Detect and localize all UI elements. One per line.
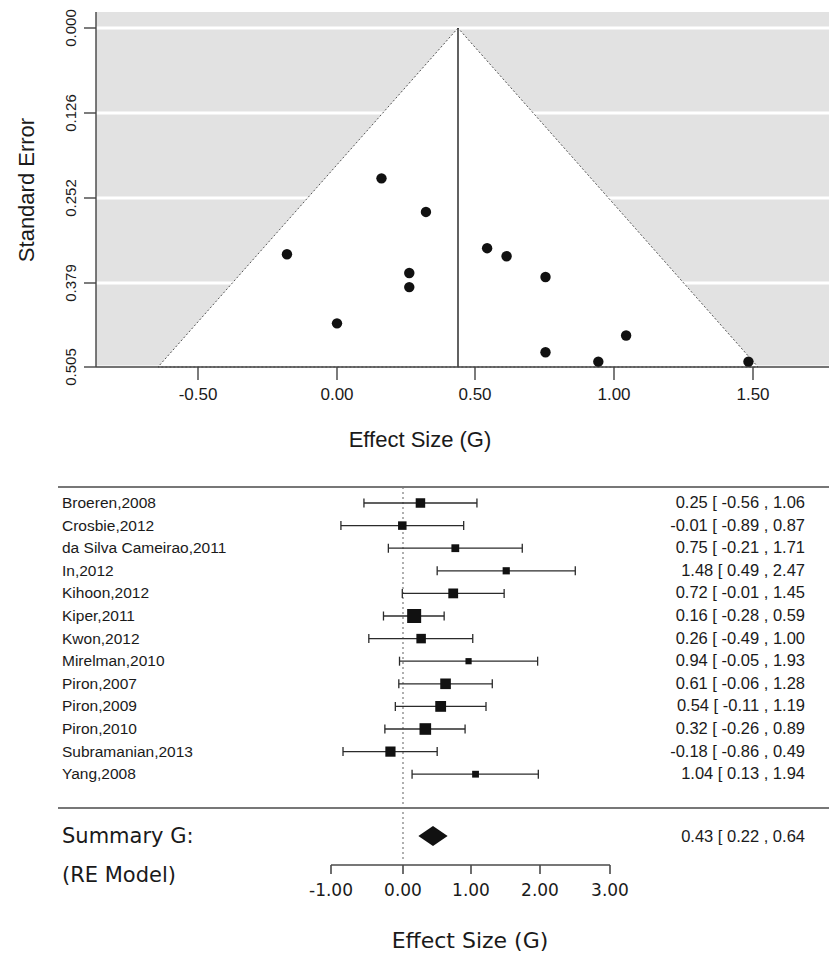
- forest-x-tick-1: 0.00: [384, 880, 422, 900]
- forest-x-tick-2: 1.00: [452, 880, 490, 900]
- forest-value-label: 0.54 [ -0.11 , 1.19: [677, 696, 805, 714]
- forest-x-tick-0: -1.00: [309, 880, 353, 900]
- forest-estimate-box: [435, 701, 446, 712]
- forest-row: Piron,20100.32 [ -0.26 , 0.89: [62, 719, 805, 737]
- funnel-x-tick-labels: -0.50 0.00 0.50 1.00 1.50: [179, 385, 770, 404]
- forest-estimate-box: [398, 521, 407, 530]
- forest-x-tick-3: 2.00: [521, 880, 559, 900]
- forest-estimate-box: [416, 634, 426, 644]
- funnel-x-tick-2: 0.50: [458, 385, 491, 404]
- forest-study-label: Mirelman,2010: [62, 652, 165, 669]
- forest-row: Crosbie,2012-0.01 [ -0.89 , 0.87: [62, 516, 805, 534]
- forest-x-axis: [331, 865, 610, 874]
- funnel-point: [332, 318, 342, 328]
- funnel-y-tick-3: 0.379: [62, 264, 79, 302]
- funnel-x-ticks: [198, 367, 753, 380]
- forest-estimate-box: [385, 747, 395, 757]
- funnel-x-tick-4: 1.50: [736, 385, 769, 404]
- forest-value-label: -0.01 [ -0.89 , 0.87: [670, 516, 805, 534]
- forest-plot-figure: Broeren,20080.25 [ -0.56 , 1.06Crosbie,2…: [0, 470, 829, 979]
- funnel-y-ticks: [84, 28, 96, 367]
- funnel-point: [540, 272, 550, 282]
- funnel-point: [404, 268, 414, 278]
- funnel-y-tick-0: 0.000: [62, 9, 79, 47]
- forest-study-label: In,2012: [62, 562, 114, 579]
- forest-estimate-box: [448, 589, 458, 599]
- forest-value-label: -0.18 [ -0.86 , 0.49: [670, 742, 805, 760]
- forest-row: Subramanian,2013-0.18 [ -0.86 , 0.49: [62, 742, 805, 760]
- funnel-point: [540, 347, 550, 357]
- funnel-y-axis-title: Standard Error: [14, 118, 39, 262]
- forest-estimate-box: [416, 498, 426, 508]
- funnel-y-tick-1: 0.126: [62, 94, 79, 132]
- forest-row: Broeren,20080.25 [ -0.56 , 1.06: [62, 493, 805, 511]
- funnel-x-tick-3: 1.00: [597, 385, 630, 404]
- funnel-point: [482, 243, 492, 253]
- forest-estimate-box: [440, 679, 451, 690]
- funnel-point: [376, 173, 386, 183]
- forest-value-label: 0.16 [ -0.28 , 0.59: [676, 606, 805, 624]
- forest-study-label: Crosbie,2012: [62, 517, 154, 534]
- funnel-x-axis-title: Effect Size (G): [349, 427, 492, 452]
- funnel-x-tick-1: 0.00: [320, 385, 353, 404]
- forest-plot-svg: Broeren,20080.25 [ -0.56 , 1.06Crosbie,2…: [0, 470, 829, 979]
- forest-value-label: 0.26 [ -0.49 , 1.00: [676, 629, 805, 647]
- funnel-point: [421, 207, 431, 217]
- forest-row: Piron,20070.61 [ -0.06 , 1.28: [62, 674, 805, 692]
- forest-row: In,20121.48 [ 0.49 , 2.47: [62, 561, 805, 579]
- forest-row: Kwon,20120.26 [ -0.49 , 1.00: [62, 629, 805, 647]
- forest-value-label: 0.75 [ -0.21 , 1.71: [676, 538, 805, 556]
- forest-study-label: Kihoon,2012: [62, 584, 149, 601]
- forest-x-tick-4: 3.00: [591, 880, 629, 900]
- forest-value-label: 0.61 [ -0.06 , 1.28: [676, 674, 805, 692]
- forest-summary-label-line1: Summary G:: [62, 824, 194, 848]
- forest-row: Kihoon,20120.72 [ -0.01 , 1.45: [62, 583, 805, 601]
- forest-study-label: Kiper,2011: [62, 607, 135, 624]
- forest-summary-value: 0.43 [ 0.22 , 0.64: [681, 827, 805, 845]
- forest-x-axis-title: Effect Size (G): [392, 928, 549, 953]
- forest-row: da Silva Cameirao,20110.75 [ -0.21 , 1.7…: [62, 538, 805, 556]
- forest-rows: Broeren,20080.25 [ -0.56 , 1.06Crosbie,2…: [62, 493, 805, 782]
- forest-estimate-box: [451, 544, 459, 552]
- forest-summary-diamond: [418, 826, 447, 846]
- funnel-y-tick-4: 0.505: [62, 348, 79, 386]
- forest-row: Mirelman,20100.94 [ -0.05 , 1.93: [62, 651, 805, 669]
- forest-row: Kiper,20110.16 [ -0.28 , 0.59: [62, 606, 805, 624]
- funnel-plot-figure: 0.000 0.126 0.252 0.379 0.505 Standard E…: [0, 0, 829, 470]
- forest-estimate-box: [472, 771, 479, 778]
- forest-study-label: Subramanian,2013: [62, 743, 193, 760]
- forest-row: Yang,20081.04 [ 0.13 , 1.94: [62, 764, 805, 782]
- forest-study-label: Kwon,2012: [62, 630, 140, 647]
- forest-summary-label-line2: (RE Model): [62, 863, 176, 887]
- funnel-point: [501, 251, 511, 261]
- forest-study-label: Yang,2008: [62, 765, 136, 782]
- funnel-plot-svg: 0.000 0.126 0.252 0.379 0.505 Standard E…: [0, 0, 829, 470]
- forest-estimate-box: [503, 567, 510, 574]
- forest-value-label: 0.94 [ -0.05 , 1.93: [676, 651, 805, 669]
- funnel-y-tick-labels: 0.000 0.126 0.252 0.379 0.505: [62, 9, 79, 386]
- forest-study-label: da Silva Cameirao,2011: [62, 539, 226, 556]
- forest-value-label: 1.48 [ 0.49 , 2.47: [681, 561, 805, 579]
- forest-value-label: 0.72 [ -0.01 , 1.45: [676, 583, 805, 601]
- funnel-y-tick-2: 0.252: [62, 179, 79, 217]
- forest-study-label: Broeren,2008: [62, 494, 156, 511]
- funnel-point: [621, 330, 631, 340]
- forest-x-tick-labels: -1.00 0.00 1.00 2.00 3.00: [309, 880, 629, 900]
- forest-estimate-box: [465, 658, 471, 664]
- forest-study-label: Piron,2009: [62, 697, 137, 714]
- funnel-point: [593, 356, 603, 366]
- funnel-point: [404, 282, 414, 292]
- funnel-x-tick-0: -0.50: [179, 385, 218, 404]
- funnel-point: [282, 249, 292, 259]
- forest-value-label: 0.25 [ -0.56 , 1.06: [676, 493, 805, 511]
- funnel-point: [743, 356, 753, 366]
- forest-value-label: 1.04 [ 0.13 , 1.94: [681, 764, 805, 782]
- forest-value-label: 0.32 [ -0.26 , 0.89: [676, 719, 805, 737]
- forest-estimate-box: [420, 723, 432, 735]
- forest-study-label: Piron,2007: [62, 675, 137, 692]
- forest-study-label: Piron,2010: [62, 720, 137, 737]
- forest-estimate-box: [407, 609, 421, 623]
- forest-row: Piron,20090.54 [ -0.11 , 1.19: [62, 696, 805, 714]
